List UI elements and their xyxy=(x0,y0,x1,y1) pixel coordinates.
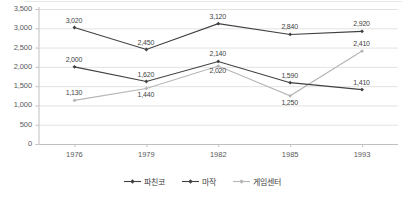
data-label: 3,020 xyxy=(57,17,91,24)
data-point-marker xyxy=(73,99,77,103)
legend-label: 마작 xyxy=(202,176,216,187)
data-label: 1,410 xyxy=(345,79,379,86)
data-label: 1,250 xyxy=(273,99,307,106)
legend-item-게임센터[interactable]: 게임센터 xyxy=(233,176,281,187)
data-label: 2,450 xyxy=(129,39,163,46)
legend-item-파친코[interactable]: 파친코 xyxy=(124,176,165,187)
data-point-marker xyxy=(360,88,364,92)
data-label: 1,620 xyxy=(129,71,163,78)
y-axis-tick-label: 500 xyxy=(2,120,32,129)
data-point-marker xyxy=(288,33,292,37)
x-axis-tick-label: 1993 xyxy=(342,150,382,159)
x-axis-tick-label: 1979 xyxy=(126,150,166,159)
data-label: 3,120 xyxy=(201,13,235,20)
y-axis-tick-label: 3,000 xyxy=(2,23,32,32)
data-label: 2,000 xyxy=(57,56,91,63)
legend-label: 게임센터 xyxy=(253,176,281,187)
x-axis-tick-label: 1985 xyxy=(270,150,310,159)
x-axis-tick-label: 1976 xyxy=(54,150,94,159)
data-label: 2,140 xyxy=(201,50,235,57)
line-chart: 3,5003,0002,5002,0001,5001,0005000 19761… xyxy=(0,0,404,199)
y-axis-tick-label: 3,500 xyxy=(2,4,32,13)
data-point-marker xyxy=(288,81,292,85)
data-point-marker xyxy=(216,60,220,64)
legend-marker-icon xyxy=(182,177,199,186)
data-label: 2,020 xyxy=(201,67,235,74)
data-label: 2,920 xyxy=(345,20,379,27)
data-label: 1,440 xyxy=(129,91,163,98)
y-axis-tick-label: 1,500 xyxy=(2,81,32,90)
y-axis-tick-label: 2,500 xyxy=(2,43,32,52)
y-axis-tick-label: 0 xyxy=(2,139,32,148)
data-point-marker xyxy=(360,29,364,33)
legend-marker-icon xyxy=(124,177,141,186)
y-axis-tick-label: 2,000 xyxy=(2,62,32,71)
x-axis-tick-label: 1982 xyxy=(198,150,238,159)
data-label: 1,590 xyxy=(273,72,307,79)
y-axis-tick-label: 1,000 xyxy=(2,100,32,109)
data-label: 1,130 xyxy=(57,89,91,96)
data-label: 2,410 xyxy=(345,40,379,47)
plot-area xyxy=(0,0,404,199)
data-point-marker xyxy=(216,22,220,26)
series-line-파친코 xyxy=(74,24,362,50)
chart-legend: 파친코마작게임센터 xyxy=(0,176,404,187)
data-point-marker xyxy=(73,65,77,69)
legend-label: 파친코 xyxy=(144,176,165,187)
data-label: 2,840 xyxy=(273,23,307,30)
legend-item-마작[interactable]: 마작 xyxy=(182,176,216,187)
legend-marker-icon xyxy=(233,177,250,186)
data-point-marker xyxy=(144,80,148,84)
